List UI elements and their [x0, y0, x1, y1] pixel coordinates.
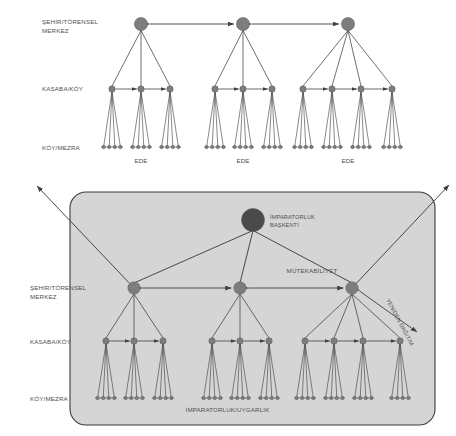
- leaf-node: [359, 396, 362, 399]
- hub-to-mid-link: [112, 31, 141, 87]
- hub-node: [236, 17, 249, 30]
- leaf-node: [205, 145, 208, 148]
- mid-node: [237, 338, 243, 344]
- top-tier-label-city: ŞEHİR/TÖRENSEL: [42, 18, 98, 25]
- annotation-reciprocity: MÜTEKABİLİYET: [287, 267, 338, 274]
- mid-node: [302, 338, 308, 344]
- leaf-node: [324, 396, 327, 399]
- panel-caption: İMPARATORLUK/UYGARLIK: [186, 406, 271, 413]
- leaf-node: [401, 396, 404, 399]
- leaf-node: [293, 145, 296, 148]
- leaf-node: [396, 396, 399, 399]
- leaf-node: [96, 396, 99, 399]
- leaf-node: [259, 396, 262, 399]
- capital-label-line2: BAŞKENTİ: [270, 222, 299, 228]
- leaf-node: [113, 145, 116, 148]
- leaf-node: [304, 145, 307, 148]
- leaf-node: [230, 396, 233, 399]
- leaf-node: [322, 145, 325, 148]
- cluster-label-ede: EDE: [134, 157, 147, 164]
- mid-node: [389, 86, 395, 92]
- hub-to-mid-link: [141, 31, 170, 87]
- leaf-node: [301, 396, 304, 399]
- leaf-node: [353, 396, 356, 399]
- leaf-node: [390, 396, 393, 399]
- hub-node: [234, 282, 246, 294]
- mid-node: [397, 338, 403, 344]
- leaf-node: [268, 145, 271, 148]
- leaf-node: [407, 396, 410, 399]
- leaf-node: [131, 145, 134, 148]
- leaf-node: [153, 396, 156, 399]
- leaf-node: [202, 396, 205, 399]
- leaf-node: [213, 396, 216, 399]
- leaf-node: [368, 145, 371, 148]
- leaf-node: [219, 396, 222, 399]
- leaf-node: [388, 145, 391, 148]
- leaf-node: [160, 145, 163, 148]
- leaf-node: [102, 396, 105, 399]
- mid-node: [160, 338, 166, 344]
- mid-node: [269, 86, 275, 92]
- diagram-canvas: EDEEDEEDEŞEHİR/TÖRENSELMERKEZKASABA/KÖYK…: [0, 0, 456, 436]
- leaf-node: [312, 396, 315, 399]
- bottom-tier-label-city: ŞEHİR/TÖRENSEL: [30, 284, 86, 291]
- leaf-node: [236, 396, 239, 399]
- leaf-node: [142, 145, 145, 148]
- leaf-node: [170, 396, 173, 399]
- leaf-node: [222, 145, 225, 148]
- leaf-node: [159, 396, 162, 399]
- mid-node: [358, 86, 364, 92]
- leaf-node: [328, 145, 331, 148]
- leaf-node: [335, 396, 338, 399]
- mid-node: [167, 86, 173, 92]
- imperial-capital-node: [242, 209, 265, 232]
- mid-node: [103, 338, 109, 344]
- bottom-tier-label-village: KÖY/MEZRA: [30, 395, 69, 402]
- hub-to-mid-link: [243, 31, 272, 87]
- hub-to-mid-link: [303, 31, 348, 87]
- leaf-node: [119, 145, 122, 148]
- hub-node: [346, 282, 358, 294]
- leaf-node: [211, 145, 214, 148]
- hub-to-mid-link: [215, 31, 243, 87]
- mid-node: [240, 86, 246, 92]
- leaf-node: [107, 396, 110, 399]
- mid-node: [266, 338, 272, 344]
- mid-node: [109, 86, 115, 92]
- top-tier-label-village: KÖY/MEZRA: [42, 144, 81, 151]
- cluster-label-ede: EDE: [236, 157, 249, 164]
- leaf-node: [306, 396, 309, 399]
- leaf-node: [171, 145, 174, 148]
- leaf-node: [364, 396, 367, 399]
- leaf-node: [351, 145, 354, 148]
- hub-node: [341, 17, 354, 30]
- mid-node: [138, 86, 144, 92]
- cluster-label-ede: EDE: [341, 157, 354, 164]
- hub-node: [128, 282, 140, 294]
- capital-label-line1: İMPARATORLUK: [270, 214, 315, 220]
- leaf-node: [250, 145, 253, 148]
- leaf-node: [357, 145, 360, 148]
- leaf-node: [399, 145, 402, 148]
- leaf-node: [216, 145, 219, 148]
- bottom-tier-label-city-2: MERKEZ: [30, 293, 57, 300]
- leaf-node: [265, 396, 268, 399]
- leaf-node: [393, 145, 396, 148]
- mid-node: [212, 86, 218, 92]
- mid-node: [329, 86, 335, 92]
- leaf-node: [299, 145, 302, 148]
- leaf-node: [244, 145, 247, 148]
- leaf-node: [166, 145, 169, 148]
- leaf-node: [130, 396, 133, 399]
- leaf-node: [124, 396, 127, 399]
- leaf-node: [262, 145, 265, 148]
- mid-node: [209, 338, 215, 344]
- leaf-node: [141, 396, 144, 399]
- figure-root: EDEEDEEDEŞEHİR/TÖRENSELMERKEZKASABA/KÖYK…: [0, 0, 456, 436]
- leaf-node: [295, 396, 298, 399]
- leaf-node: [339, 145, 342, 148]
- mid-node: [360, 338, 366, 344]
- leaf-node: [241, 396, 244, 399]
- leaf-node: [137, 145, 140, 148]
